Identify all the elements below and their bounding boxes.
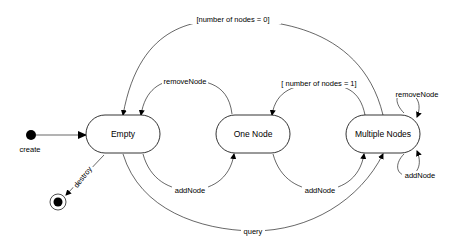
transition-empty-query <box>123 154 383 231</box>
label-add-node-one: addNode <box>305 186 335 195</box>
state-empty[interactable]: Empty <box>86 115 160 153</box>
state-multiple-nodes-label: Multiple Nodes <box>355 129 411 139</box>
label-query: query <box>244 227 263 236</box>
label-destroy: destroy <box>72 164 94 189</box>
transition-multiple-to-one <box>272 84 365 115</box>
label-add-node-empty: addNode <box>175 186 205 195</box>
state-diagram: Empty One Node Multiple Nodes [number of… <box>0 0 463 246</box>
label-create: create <box>20 145 41 154</box>
label-remove-node: removeNode <box>164 77 207 86</box>
label-number-of-nodes-0: [number of nodes = 0] <box>196 15 269 24</box>
label-remove-node-self: removeNode <box>396 90 439 99</box>
transition-empty-to-one <box>143 154 234 190</box>
state-one-node[interactable]: One Node <box>216 115 290 153</box>
label-number-of-nodes-1: [ number of nodes = 1] <box>281 79 356 88</box>
state-multiple-nodes[interactable]: Multiple Nodes <box>346 115 420 153</box>
initial-state-icon <box>26 130 36 140</box>
state-one-node-label: One Node <box>234 129 273 139</box>
transition-one-to-multiple <box>273 154 364 190</box>
label-add-node-self: addNode <box>405 171 435 180</box>
transition-multiple-to-empty <box>123 20 383 115</box>
state-empty-label: Empty <box>111 129 136 139</box>
